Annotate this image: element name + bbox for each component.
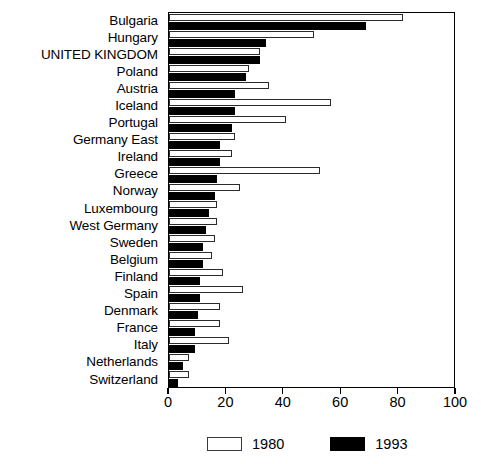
bar-group: [169, 183, 454, 200]
bar-1993: [169, 226, 206, 234]
legend-swatch-icon: [207, 437, 242, 451]
category-row: Luxembourg: [0, 200, 163, 217]
category-label: Belgium: [110, 253, 158, 267]
bar-1980: [169, 235, 215, 242]
bar-1980: [169, 99, 331, 106]
bar-1980: [169, 31, 314, 38]
bar-1980: [169, 184, 240, 191]
bar-group: [169, 47, 454, 64]
category-label: Ireland: [117, 150, 158, 164]
category-row: Portugal: [0, 115, 163, 132]
bar-1980: [169, 269, 223, 276]
category-label: Austria: [117, 82, 158, 96]
bar-group: [169, 115, 454, 132]
category-label: Finland: [114, 270, 158, 284]
bar-1993: [169, 243, 203, 251]
bar-1993: [169, 107, 235, 115]
bar-chart: BulgariaHungaryUNITED KINGDOMPolandAustr…: [0, 0, 481, 464]
category-row: Denmark: [0, 303, 163, 320]
bar-1980: [169, 65, 249, 72]
bar-1980: [169, 116, 286, 123]
x-tick-label: 80: [390, 394, 406, 411]
category-label: France: [117, 321, 158, 335]
bar-1993: [169, 124, 232, 132]
bar-group: [169, 13, 454, 30]
category-row: Spain: [0, 286, 163, 303]
bar-1980: [169, 133, 235, 140]
category-label: Greece: [114, 167, 158, 181]
bar-1993: [169, 158, 220, 166]
bar-group: [169, 251, 454, 268]
bar-1980: [169, 82, 269, 89]
bar-1980: [169, 320, 220, 327]
bar-1993: [169, 175, 217, 183]
bar-1980: [169, 286, 243, 293]
bar-1993: [169, 260, 203, 268]
category-row: Norway: [0, 183, 163, 200]
plot-area: [168, 12, 455, 388]
x-tick-label: 60: [332, 394, 348, 411]
bar-1980: [169, 218, 217, 225]
legend-label: 1980: [252, 436, 284, 452]
category-row: Netherlands: [0, 354, 163, 371]
bar-1980: [169, 371, 189, 378]
bar-group: [169, 200, 454, 217]
category-label: Italy: [134, 338, 158, 352]
category-label: Norway: [113, 184, 158, 198]
bar-1993: [169, 379, 178, 387]
category-row: West Germany: [0, 217, 163, 234]
bars-layer: [169, 13, 454, 387]
bar-1980: [169, 201, 217, 208]
bar-group: [169, 319, 454, 336]
bar-group: [169, 217, 454, 234]
category-label: West Germany: [69, 219, 158, 233]
bar-1993: [169, 277, 200, 285]
category-label: Bulgaria: [109, 14, 158, 28]
category-row: Sweden: [0, 234, 163, 251]
category-row: Bulgaria: [0, 12, 163, 29]
category-row: UNITED KINGDOM: [0, 46, 163, 63]
bar-1980: [169, 337, 229, 344]
bar-1993: [169, 294, 200, 302]
category-label: Portugal: [109, 116, 158, 130]
bar-1980: [169, 354, 189, 361]
bar-group: [169, 149, 454, 166]
category-row: Hungary: [0, 29, 163, 46]
category-row: Germany East: [0, 132, 163, 149]
bar-1980: [169, 252, 212, 259]
category-label: Netherlands: [86, 355, 158, 369]
bar-group: [169, 64, 454, 81]
category-row: Belgium: [0, 251, 163, 268]
category-row: Greece: [0, 166, 163, 183]
bar-1980: [169, 167, 320, 174]
bar-group: [169, 370, 454, 387]
legend-entry: 1980: [207, 436, 284, 452]
bar-group: [169, 166, 454, 183]
category-row: France: [0, 320, 163, 337]
bar-group: [169, 353, 454, 370]
bar-group: [169, 234, 454, 251]
category-label: Sweden: [110, 236, 158, 250]
bar-1993: [169, 192, 215, 200]
category-row: Italy: [0, 337, 163, 354]
bar-group: [169, 285, 454, 302]
legend-swatch-icon: [330, 437, 365, 451]
bar-group: [169, 30, 454, 47]
bar-group: [169, 268, 454, 285]
category-row: Poland: [0, 63, 163, 80]
bar-group: [169, 98, 454, 115]
x-tick-label: 100: [443, 394, 467, 411]
category-row: Ireland: [0, 149, 163, 166]
x-tick-label: 40: [275, 394, 291, 411]
bar-group: [169, 336, 454, 353]
bar-group: [169, 132, 454, 149]
category-label: Luxembourg: [84, 202, 158, 216]
category-label: Switzerland: [89, 373, 158, 387]
category-label: Poland: [117, 65, 158, 79]
category-axis: BulgariaHungaryUNITED KINGDOMPolandAustr…: [0, 12, 163, 388]
bar-1993: [169, 22, 366, 30]
bar-1993: [169, 56, 260, 64]
bar-1993: [169, 141, 220, 149]
bar-1993: [169, 311, 198, 319]
x-axis: 020406080100: [168, 388, 455, 414]
